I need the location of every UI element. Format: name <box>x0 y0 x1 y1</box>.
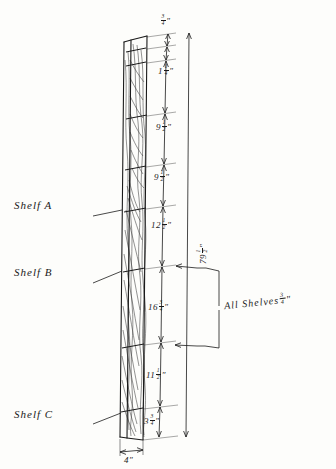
dim-2-whole: 9 <box>156 122 161 132</box>
dim-5-label: 16 3 4 ″ <box>148 300 169 312</box>
dim-overall-fraction: 1 2 <box>196 248 208 253</box>
all-shelves-unit: ″ <box>285 293 291 304</box>
dim-6-whole: 11 <box>146 370 155 380</box>
dim-bottom-unit: ″ <box>155 416 159 426</box>
dim-depth-label: 4″ <box>124 455 133 465</box>
dim-4-unit: ″ <box>167 220 171 230</box>
dim-1-whole: 1 <box>158 66 163 76</box>
dim-top-label: 3 4 ″ <box>160 14 171 26</box>
dim-3-label: 9 1 2 ″ <box>154 170 170 182</box>
dim-3-unit: ″ <box>165 172 169 182</box>
dim-6-unit: ″ <box>162 370 166 380</box>
dim-top-unit: ″ <box>166 16 170 26</box>
dim-1-fraction: 1 4 <box>164 64 169 76</box>
dim-1-label: 1 1 4 ″ <box>158 64 174 76</box>
leader-lines <box>93 210 122 424</box>
dim-3-whole: 9 <box>154 172 159 182</box>
depth-dimension <box>120 439 143 456</box>
shelf-c-label: Shelf C <box>14 408 53 420</box>
dim-2-unit: ″ <box>167 122 171 132</box>
dim-overall-unit: ″ <box>198 243 208 247</box>
shelf-b-label: Shelf B <box>14 266 52 278</box>
dim-overall-whole: 79 <box>198 254 208 264</box>
dim-5-unit: ″ <box>164 302 168 312</box>
dim-bottom-fraction: 3 4 <box>150 414 155 426</box>
dim-4-label: 12 1 2 ″ <box>151 218 172 230</box>
shelf-a-label: Shelf A <box>14 199 52 211</box>
dim-6-label: 11 1 2 ″ <box>146 368 166 380</box>
dim-bottom-whole: 3 <box>144 416 149 426</box>
drawing-sheet: Shelf A Shelf B Shelf C 3 4 ″ 1 1 4 ″ 9 … <box>0 0 336 469</box>
dim-2-fraction: 1 2 <box>162 120 167 132</box>
dim-overall-height-label: 79 1 2 ″ <box>196 243 208 264</box>
dim-2-label: 9 1 2 ″ <box>156 120 172 132</box>
all-shelves-leader <box>175 264 219 348</box>
dim-depth-unit: ″ <box>129 455 133 465</box>
dim-4-whole: 12 <box>151 220 161 230</box>
dim-5-fraction: 3 4 <box>159 300 164 312</box>
dim-6-fraction: 1 2 <box>156 368 161 380</box>
dim-bottom-label: 3 3 4 ″ <box>144 414 160 426</box>
dim-5-whole: 16 <box>148 302 158 312</box>
dim-top-fraction: 3 4 <box>161 14 166 26</box>
wood-grain <box>122 44 146 437</box>
overall-height-dimension <box>184 33 192 437</box>
dim-1-unit: ″ <box>169 66 173 76</box>
dim-4-fraction: 1 2 <box>162 218 167 230</box>
dim-3-fraction: 1 2 <box>160 170 165 182</box>
